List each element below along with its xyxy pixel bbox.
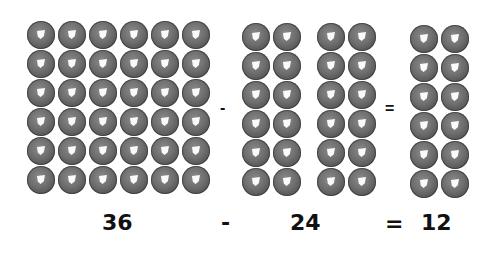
cereal-ring-icon: [273, 23, 301, 51]
number-12: 12: [421, 212, 452, 234]
cereal-ring-icon: [273, 81, 301, 109]
cereal-ring-icon: [348, 139, 376, 167]
cereal-ring-icon: [120, 79, 148, 107]
cereal-ring-icon: [182, 21, 210, 49]
cereal-ring-icon: [441, 141, 469, 169]
cereal-ring-icon: [242, 110, 270, 138]
cereal-ring-icon: [27, 21, 55, 49]
cereal-ring-icon: [182, 108, 210, 136]
cereal-ring-icon: [348, 110, 376, 138]
cereal-ring-icon: [273, 139, 301, 167]
cereal-ring-icon: [317, 168, 345, 196]
cereal-ring-icon: [58, 166, 86, 194]
cereal-ring-icon: [27, 108, 55, 136]
cereal-ring-icon: [27, 50, 55, 78]
cereal-ring-icon: [242, 23, 270, 51]
ring-group-12a: [242, 23, 301, 196]
equals-sign-row: =: [385, 101, 394, 117]
cereal-ring-icon: [317, 81, 345, 109]
cereal-ring-icon: [89, 108, 117, 136]
cereal-ring-icon: [27, 137, 55, 165]
cereal-ring-icon: [410, 83, 438, 111]
cereal-ring-icon: [410, 170, 438, 198]
minus-sign-bottom: -: [221, 212, 230, 234]
cereal-ring-icon: [410, 25, 438, 53]
cereal-ring-icon: [441, 83, 469, 111]
cereal-ring-icon: [120, 50, 148, 78]
cereal-ring-icon: [317, 110, 345, 138]
cereal-ring-icon: [317, 23, 345, 51]
cereal-ring-icon: [273, 168, 301, 196]
cereal-ring-icon: [242, 168, 270, 196]
number-36: 36: [102, 212, 133, 234]
cereal-ring-icon: [317, 139, 345, 167]
ring-group-result: [410, 25, 469, 198]
cereal-ring-icon: [58, 108, 86, 136]
cereal-ring-icon: [151, 166, 179, 194]
cereal-ring-icon: [89, 50, 117, 78]
cereal-ring-icon: [27, 166, 55, 194]
cereal-ring-icon: [58, 50, 86, 78]
cereal-ring-icon: [348, 23, 376, 51]
cereal-ring-icon: [182, 137, 210, 165]
cereal-ring-icon: [89, 166, 117, 194]
cereal-ring-icon: [89, 137, 117, 165]
cereal-ring-icon: [441, 170, 469, 198]
cereal-ring-icon: [348, 52, 376, 80]
cereal-ring-icon: [317, 52, 345, 80]
cereal-ring-icon: [410, 141, 438, 169]
cereal-ring-icon: [151, 79, 179, 107]
cereal-ring-icon: [182, 166, 210, 194]
cereal-ring-icon: [441, 54, 469, 82]
equals-sign-bottom: =: [385, 213, 403, 235]
cereal-ring-icon: [182, 79, 210, 107]
cereal-ring-icon: [348, 168, 376, 196]
cereal-ring-icon: [348, 81, 376, 109]
cereal-ring-icon: [410, 112, 438, 140]
cereal-ring-icon: [273, 52, 301, 80]
ring-group-12b: [317, 23, 376, 196]
cereal-ring-icon: [410, 54, 438, 82]
cereal-ring-icon: [242, 81, 270, 109]
cereal-ring-icon: [120, 108, 148, 136]
cereal-ring-icon: [58, 79, 86, 107]
cereal-ring-icon: [27, 79, 55, 107]
minus-sign-row: -: [220, 100, 225, 116]
cereal-ring-icon: [120, 21, 148, 49]
cereal-ring-icon: [58, 21, 86, 49]
cereal-ring-icon: [441, 25, 469, 53]
cereal-ring-icon: [242, 139, 270, 167]
cereal-ring-icon: [182, 50, 210, 78]
ring-group-36: [27, 21, 210, 194]
cereal-ring-icon: [151, 21, 179, 49]
cereal-ring-icon: [89, 21, 117, 49]
cereal-ring-icon: [89, 79, 117, 107]
cereal-ring-icon: [120, 137, 148, 165]
cereal-ring-icon: [151, 108, 179, 136]
cereal-ring-icon: [441, 112, 469, 140]
cereal-ring-icon: [151, 137, 179, 165]
cereal-ring-icon: [151, 50, 179, 78]
cereal-ring-icon: [120, 166, 148, 194]
number-24: 24: [290, 212, 321, 234]
cereal-ring-icon: [242, 52, 270, 80]
cereal-ring-icon: [58, 137, 86, 165]
cereal-ring-icon: [273, 110, 301, 138]
